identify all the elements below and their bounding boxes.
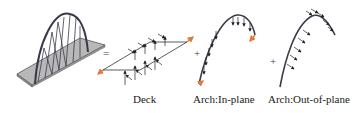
deck-model xyxy=(98,34,193,85)
deck-bottom-forces xyxy=(125,57,162,85)
arch-out-of-plane-label: Arch:Out-of-plane xyxy=(268,93,350,105)
equals-sign: = xyxy=(103,47,109,59)
arch-in-plane-model xyxy=(199,15,255,84)
bridge-model xyxy=(17,14,105,87)
plus-sign-2: + xyxy=(270,55,276,67)
deck-top-forces xyxy=(128,34,165,60)
arch-out-of-plane-model xyxy=(280,9,335,87)
deck-label: Deck xyxy=(133,93,156,105)
bridge-decomposition-figure: = + + Deck Arch:In-plane Arch:Out-of-pla… xyxy=(0,0,363,113)
arch-in-plane-curve xyxy=(199,15,255,84)
arch-in-plane-label: Arch:In-plane xyxy=(193,93,255,105)
arch-out-of-plane-curve xyxy=(280,15,335,87)
plus-sign-1: + xyxy=(194,47,200,59)
